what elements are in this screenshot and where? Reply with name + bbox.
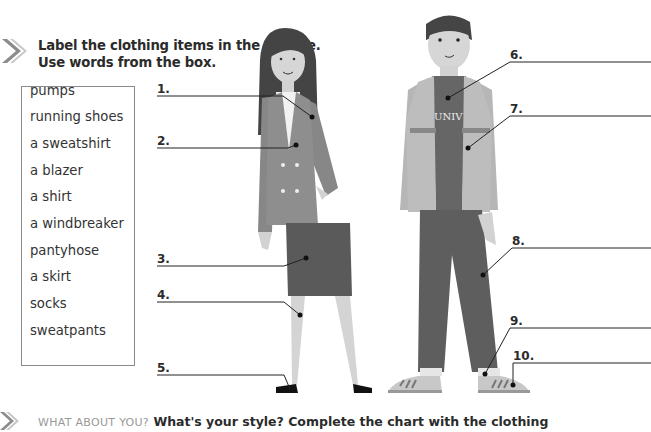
label-number-5: 5. (157, 361, 170, 375)
answer-blank-3[interactable] (172, 252, 277, 266)
label-number-7: 7. (510, 102, 523, 116)
answer-blank-7[interactable] (528, 102, 648, 116)
answer-blank-8[interactable] (530, 234, 648, 248)
sweatshirt-print: UNIV (434, 111, 463, 122)
label-number-4: 4. (157, 288, 170, 302)
answer-blank-2[interactable] (172, 134, 277, 148)
answer-blank-9[interactable] (528, 314, 648, 328)
man-figure: UNIV (388, 15, 530, 393)
label-number-2: 2. (157, 134, 170, 148)
next-exercise-text: What's your style? Complete the chart wi… (153, 414, 548, 429)
label-number-3: 3. (157, 252, 170, 266)
chevron-arrow-icon (0, 410, 22, 432)
what-about-you-label: WHAT ABOUT YOU? (38, 416, 149, 429)
label-number-10: 10. (513, 349, 534, 363)
label-number-9: 9. (510, 314, 523, 328)
label-number-8: 8. (512, 234, 525, 248)
label-number-1: 1. (157, 82, 170, 96)
answer-blank-1[interactable] (172, 82, 277, 96)
answer-blank-4[interactable] (172, 288, 277, 302)
next-exercise-instruction: WHAT ABOUT YOU? What's your style? Compl… (38, 414, 548, 429)
answer-blank-5[interactable] (172, 361, 277, 375)
label-number-6: 6. (510, 48, 523, 62)
answer-blank-6[interactable] (528, 48, 648, 62)
answer-blank-10[interactable] (533, 349, 648, 363)
